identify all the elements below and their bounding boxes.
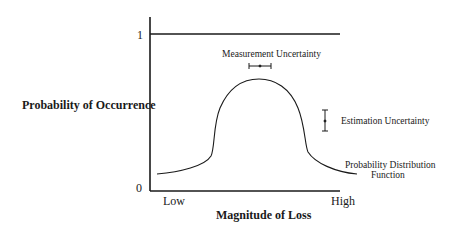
pdf-label-line1: Probability Distribution: [345, 160, 436, 170]
x-tick-low: Low: [163, 194, 185, 208]
x-tick-high: High: [331, 194, 355, 208]
x-axis-title: Magnitude of Loss: [216, 208, 312, 222]
probability-distribution-curve: [157, 79, 357, 174]
measurement-uncertainty-label: Measurement Uncertainty: [222, 49, 321, 59]
y-axis-title: Probability of Occurrence: [22, 98, 156, 112]
y-tick-one: 1: [137, 28, 143, 42]
y-tick-zero: 0: [136, 181, 142, 195]
risk-diagram: 1 0 Low High Probability of Occurrence M…: [0, 0, 451, 234]
estimation-error-bar-icon: [322, 110, 328, 131]
measurement-error-bar-icon: [249, 63, 271, 69]
pdf-label-line2: Function: [371, 170, 405, 180]
estimation-uncertainty-label: Estimation Uncertainty: [341, 116, 430, 126]
